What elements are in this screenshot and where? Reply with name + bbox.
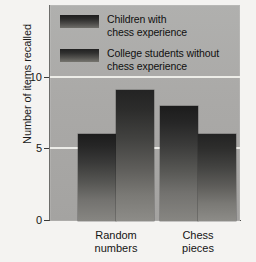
legend-item-children: Children with chess experience [60, 13, 219, 38]
legend-swatch-icon-college [60, 49, 99, 62]
plot-area: Children with chess experience College s… [50, 5, 240, 221]
bar-random-numbers-college [116, 90, 154, 221]
legend-item-college: College students without chess experienc… [60, 47, 219, 72]
bar-chess-pieces-children [160, 106, 198, 221]
y-tick-label-5: 5 [2, 142, 42, 154]
chart-legend: Children with chess experience College s… [60, 13, 219, 81]
x-category-label-chess-pieces: Chess pieces [143, 229, 253, 255]
y-tick-label-0: 0 [2, 214, 42, 226]
y-tick-label-10: 10 [2, 71, 42, 83]
bar-random-numbers-children [78, 134, 116, 221]
bar-chess-pieces-college [198, 134, 236, 221]
legend-swatch-icon-children [60, 15, 99, 28]
legend-label-children: Children with chess experience [107, 13, 187, 38]
y-axis-tick-group: 10 5 0 [0, 0, 42, 262]
bar-chart-figure: Number of items recalled 10 5 0 Children… [0, 0, 256, 262]
legend-label-college: College students without chess experienc… [107, 47, 219, 72]
